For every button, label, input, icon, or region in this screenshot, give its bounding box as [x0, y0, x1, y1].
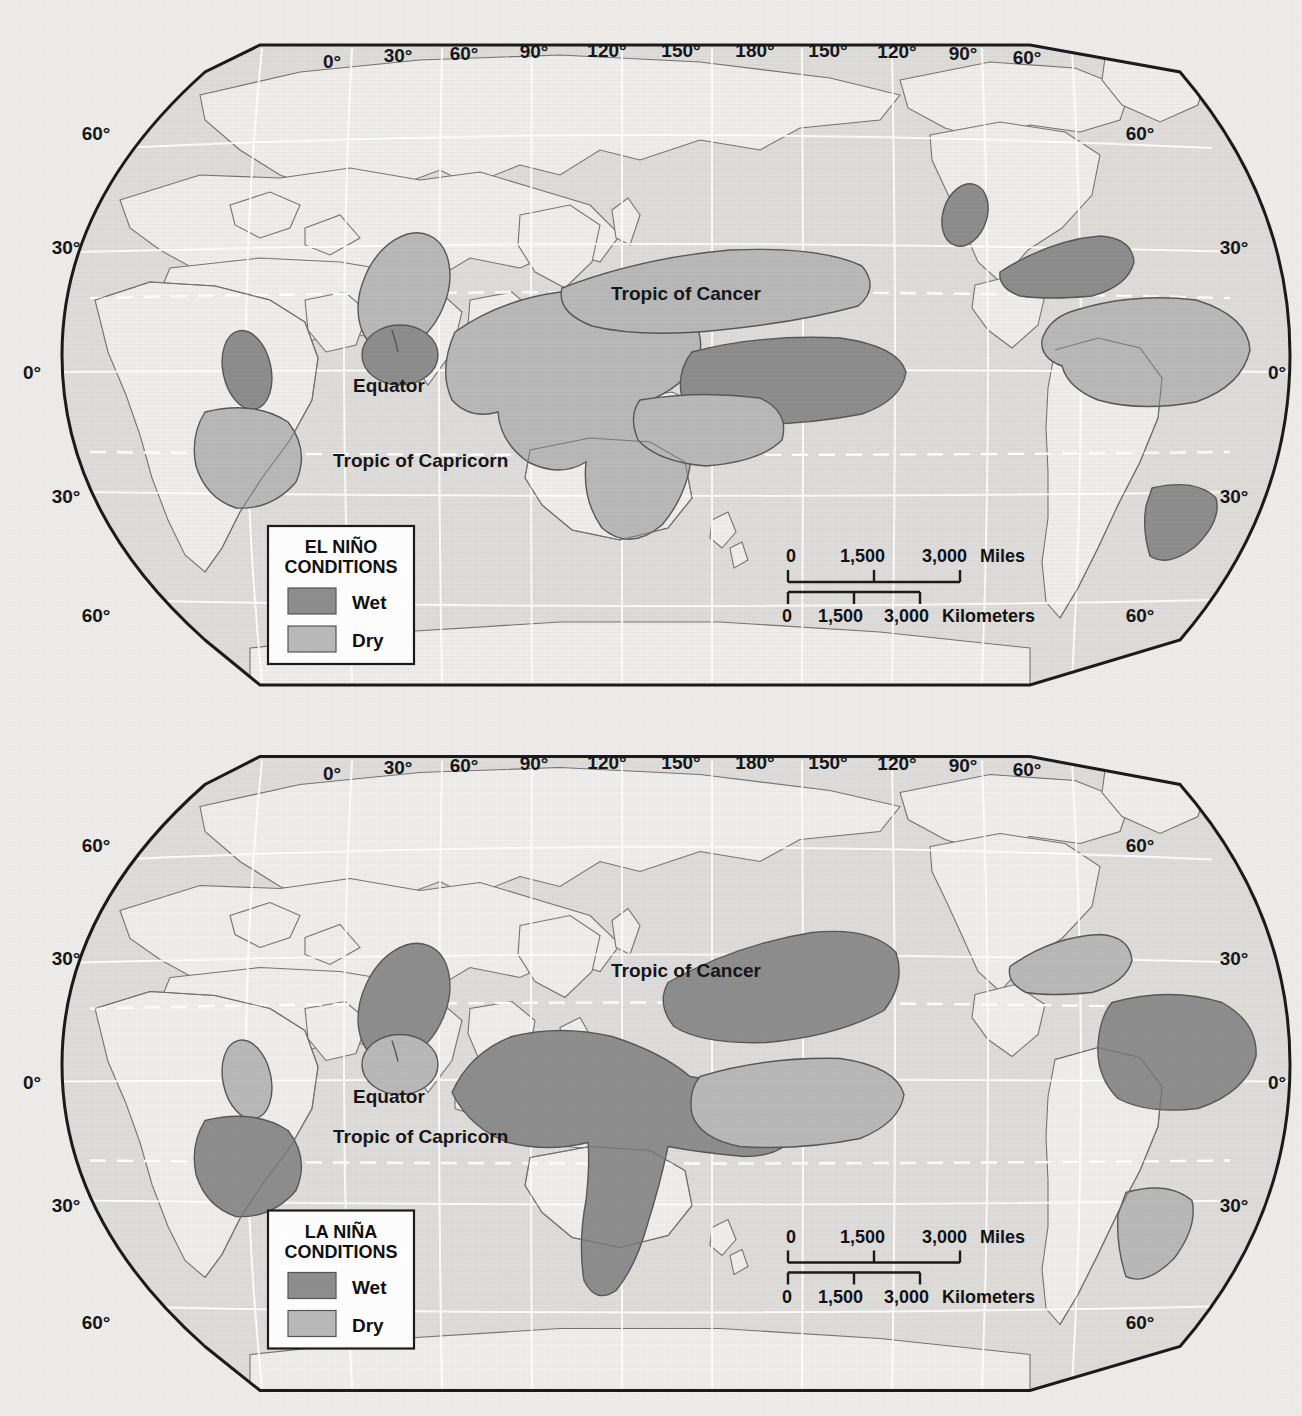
map-panel-la-nina: 0° 30° 60° 90° 120° 150° 180° 150° 120° …	[0, 710, 1302, 1416]
legend-label-wet: Wet	[352, 592, 387, 613]
lon-label: 90°	[949, 755, 978, 776]
annotation-equator: Equator	[353, 375, 425, 396]
lat-label-right: 60°	[1126, 123, 1155, 144]
legend-title-line2: CONDITIONS	[284, 1242, 397, 1262]
lon-label: 60°	[1013, 759, 1042, 780]
lon-label: 180°	[735, 40, 774, 61]
scale-miles-tick: 1,500	[840, 546, 885, 566]
legend-swatch-dry	[288, 626, 336, 652]
lon-label: 120°	[587, 40, 626, 61]
legend-label-dry: Dry	[352, 630, 384, 651]
scale-miles-tick: 1,500	[840, 1227, 885, 1247]
legend-swatch-dry	[288, 1311, 336, 1337]
figure-page: 0° 30° 60° 90° 120° 150° 180° 150° 120° …	[0, 0, 1302, 1416]
legend-title-line1: LA NIÑA	[305, 1221, 377, 1242]
annotation-tropic-of-capricorn: Tropic of Capricorn	[333, 1126, 508, 1147]
lat-label-right: 60°	[1126, 1312, 1155, 1333]
annotation-tropic-of-capricorn: Tropic of Capricorn	[333, 450, 508, 471]
scale-km-tick: 3,000	[884, 1287, 929, 1307]
lat-label-right: 30°	[1220, 486, 1249, 507]
lon-label: 0°	[323, 51, 341, 72]
lat-label-left: 30°	[52, 948, 81, 969]
lat-label-right: 0°	[1268, 362, 1286, 383]
lon-label: 150°	[661, 752, 700, 773]
lat-label-left: 60°	[82, 1312, 111, 1333]
legend-swatch-wet	[288, 1273, 336, 1299]
lat-label-right: 60°	[1126, 605, 1155, 626]
lon-label: 60°	[1013, 47, 1042, 68]
lon-label: 90°	[949, 43, 978, 64]
scale-miles-tick: 0	[786, 1227, 796, 1247]
scale-km-tick: 0	[782, 606, 792, 626]
legend-label-wet: Wet	[352, 1277, 387, 1298]
lon-label: 0°	[323, 763, 341, 784]
annotation-tropic-of-cancer: Tropic of Cancer	[611, 960, 762, 981]
scale-miles-tick: 3,000	[922, 546, 967, 566]
scale-miles-tick: 0	[786, 546, 796, 566]
scale-miles-unit: Miles	[980, 1227, 1025, 1247]
lon-label: 150°	[808, 752, 847, 773]
lon-label: 180°	[735, 752, 774, 773]
lon-label: 60°	[450, 43, 479, 64]
legend-la-nina: LA NIÑA CONDITIONS Wet Dry	[268, 1211, 414, 1349]
lat-label-left: 30°	[52, 486, 81, 507]
lat-label-left: 60°	[82, 835, 111, 856]
lon-label: 90°	[520, 41, 549, 62]
lon-label: 120°	[877, 41, 916, 62]
lon-label: 30°	[384, 757, 413, 778]
lat-label-left: 0°	[23, 1072, 41, 1093]
lon-label: 90°	[520, 753, 549, 774]
legend-title-line1: EL NIÑO	[305, 536, 378, 557]
lon-label: 120°	[877, 753, 916, 774]
lat-label-right: 30°	[1220, 1195, 1249, 1216]
legend-title-line2: CONDITIONS	[284, 557, 397, 577]
annotation-equator: Equator	[353, 1086, 425, 1107]
lon-label: 150°	[808, 40, 847, 61]
scale-km-tick: 3,000	[884, 606, 929, 626]
legend-swatch-wet	[288, 588, 336, 614]
map-panel-el-nino: 0° 30° 60° 90° 120° 150° 180° 150° 120° …	[0, 0, 1302, 715]
lon-label: 150°	[661, 40, 700, 61]
scale-km-tick: 1,500	[818, 1287, 863, 1307]
lat-label-right: 60°	[1126, 835, 1155, 856]
lat-label-left: 30°	[52, 1195, 81, 1216]
lat-label-right: 0°	[1268, 1072, 1286, 1093]
scale-km-tick: 0	[782, 1287, 792, 1307]
lon-label: 120°	[587, 752, 626, 773]
scale-km-tick: 1,500	[818, 606, 863, 626]
lat-label-right: 30°	[1220, 237, 1249, 258]
map-body-el-nino	[0, 0, 1302, 715]
legend-label-dry: Dry	[352, 1315, 384, 1336]
scale-miles-unit: Miles	[980, 546, 1025, 566]
lat-label-left: 0°	[23, 362, 41, 383]
map-body-la-nina	[0, 715, 1302, 1416]
lon-label: 60°	[450, 755, 479, 776]
scale-km-unit: Kilometers	[942, 1287, 1035, 1307]
legend-el-nino: EL NIÑO CONDITIONS Wet Dry	[268, 526, 414, 664]
lat-label-left: 30°	[52, 237, 81, 258]
lat-label-left: 60°	[82, 123, 111, 144]
annotation-tropic-of-cancer: Tropic of Cancer	[611, 283, 762, 304]
lat-label-right: 30°	[1220, 948, 1249, 969]
scale-km-unit: Kilometers	[942, 606, 1035, 626]
lat-label-left: 60°	[82, 605, 111, 626]
scale-miles-tick: 3,000	[922, 1227, 967, 1247]
lon-label: 30°	[384, 45, 413, 66]
